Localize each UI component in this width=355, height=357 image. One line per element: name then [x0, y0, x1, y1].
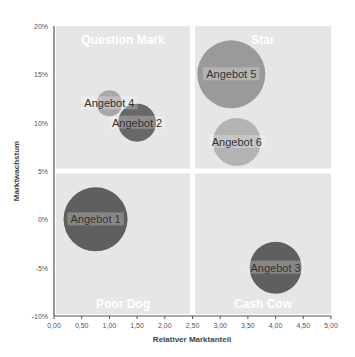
- quadrant-label: Poor Dog: [96, 297, 150, 311]
- bubble-label: Angebot 2: [112, 117, 162, 129]
- bubble-label: Angebot 5: [206, 68, 256, 80]
- x-tick-label: 2,00: [158, 322, 172, 329]
- y-tick-label: 0%: [38, 216, 48, 223]
- y-tick-label: 10%: [34, 120, 48, 127]
- x-tick-label: 2,50: [186, 322, 200, 329]
- bubble-angebot-1: Angebot 1: [64, 187, 128, 251]
- bubble-label: Angebot 3: [251, 262, 301, 274]
- x-tick-label: 0,00: [47, 322, 61, 329]
- y-tick-label: 15%: [34, 71, 48, 78]
- bubble-angebot-5: Angebot 5: [197, 40, 265, 108]
- y-axis-title: Marktwachstum: [12, 141, 21, 201]
- y-tick-label: -5%: [36, 265, 48, 272]
- x-tick-label: 4,50: [296, 322, 310, 329]
- x-axis-title: Relativer Marktanteil: [153, 335, 231, 344]
- quadrant-bottom-right: [195, 174, 331, 315]
- x-tick-label: 0,50: [75, 322, 89, 329]
- bubble-label: Angebot 1: [70, 213, 120, 225]
- bubble-label: Angebot 6: [212, 136, 262, 148]
- bcg-bubble-chart: Question MarkStarPoor DogCash Cow Angebo…: [0, 0, 355, 357]
- y-tick-label: 5%: [38, 168, 48, 175]
- x-tick-label: 5,00: [324, 322, 338, 329]
- y-tick-label: -10%: [32, 313, 48, 320]
- quadrant-label: Star: [251, 33, 275, 47]
- x-tick-label: 3,00: [213, 322, 227, 329]
- x-tick-label: 4,00: [269, 322, 283, 329]
- bubble-label: Angebot 4: [84, 97, 134, 109]
- quadrant-label: Question Mark: [81, 33, 165, 47]
- x-tick-label: 1,00: [103, 322, 117, 329]
- x-tick-label: 3,50: [241, 322, 255, 329]
- y-tick-label: 20%: [34, 23, 48, 30]
- x-tick-label: 1,50: [130, 322, 144, 329]
- quadrant-label: Cash Cow: [234, 297, 293, 311]
